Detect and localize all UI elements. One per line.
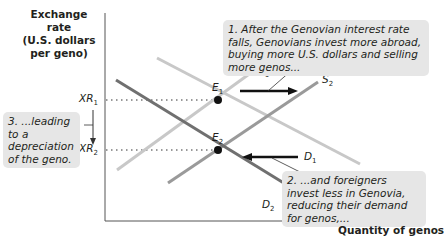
callout-2: 2. ...and foreigners invest less in Geno…	[282, 171, 426, 227]
callout-3: 3. ...leading to a depreciation of the g…	[3, 112, 80, 168]
x-axis-label: Quantity of genos	[338, 224, 444, 236]
xr2-tick-label: XR2	[79, 142, 98, 157]
callout-1: 1. After the Genovian interest rate fall…	[223, 20, 429, 76]
s2-curve	[168, 82, 318, 183]
supply-shift-arrowhead	[288, 87, 298, 95]
callout2-leader	[272, 158, 300, 172]
d1-label: D1	[304, 150, 317, 165]
d2-label: D2	[262, 198, 275, 213]
e1-point	[214, 96, 222, 104]
y-axis-label: Exchange rate (U.S. dollars per geno)	[18, 8, 100, 60]
e2-point	[214, 146, 222, 154]
xr1-tick-label: XR1	[79, 92, 98, 107]
e2-label: E2	[212, 131, 223, 146]
e1-label: E1	[212, 81, 223, 96]
